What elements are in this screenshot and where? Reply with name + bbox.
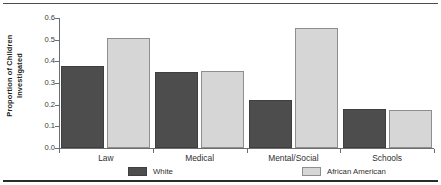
bar-african-american-law — [107, 38, 150, 149]
y-axis-tick-label: 0.6 — [35, 14, 55, 22]
y-axis-tick-label: 0.0 — [35, 144, 55, 152]
x-axis-tick — [153, 149, 154, 153]
y-axis-title-line-2: Investigated — [15, 35, 25, 117]
x-axis-tick — [340, 149, 341, 153]
legend-item-white: White — [128, 167, 173, 176]
y-axis-line — [59, 18, 60, 149]
y-axis-tick-label: 0.4 — [35, 57, 55, 65]
y-axis-tick-label: 0.2 — [35, 101, 55, 109]
chart-figure: Proportion of Children Investigated 0.60… — [0, 0, 441, 185]
legend-label: White — [153, 167, 173, 176]
y-axis-tick — [55, 83, 59, 84]
y-axis-tick — [55, 18, 59, 19]
x-axis-tick — [59, 149, 60, 153]
bar-white-law — [61, 66, 104, 148]
x-axis-category-label: Schools — [372, 153, 402, 163]
bar-african-american-mental-social — [295, 28, 338, 148]
x-axis-category-label: Medical — [185, 153, 214, 163]
bar-african-american-medical — [201, 71, 244, 148]
legend-swatch — [128, 167, 147, 176]
y-axis-tick — [55, 105, 59, 106]
y-axis-tick-labels: 0.60.50.40.30.20.10.0 — [30, 18, 55, 149]
bottom-divider-rule — [3, 180, 438, 182]
legend-swatch — [302, 167, 321, 176]
x-axis-tick — [434, 149, 435, 153]
y-axis-tick-label: 0.1 — [35, 122, 55, 130]
y-axis-title-line-1: Proportion of Children — [5, 35, 15, 117]
y-axis-tick — [55, 126, 59, 127]
x-axis-category-label: Mental/Social — [268, 153, 318, 163]
x-axis-category-label: Law — [98, 153, 113, 163]
bar-white-mental-social — [249, 100, 292, 148]
top-divider-rule — [3, 3, 438, 4]
y-axis-tick — [55, 61, 59, 62]
y-axis-tick-label: 0.5 — [35, 36, 55, 44]
legend-label: African American — [327, 167, 386, 176]
y-axis-tick — [55, 40, 59, 41]
bar-white-medical — [155, 72, 198, 148]
bar-african-american-schools — [389, 110, 432, 148]
y-axis-title: Proportion of Children Investigated — [0, 0, 30, 152]
bar-white-schools — [343, 109, 386, 148]
y-axis-tick-label: 0.3 — [35, 79, 55, 87]
legend-item-african-american: African American — [302, 167, 386, 176]
chart-legend: WhiteAfrican American — [0, 167, 441, 179]
plot-area — [59, 18, 434, 148]
x-axis-tick — [247, 149, 248, 153]
